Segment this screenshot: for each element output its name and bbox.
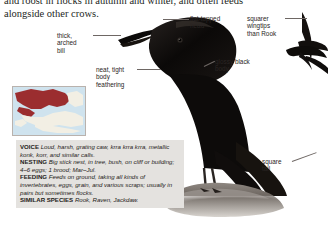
fact-value-voice: Loud, harsh, grating caw, krra krra krra… [20, 143, 169, 158]
fact-entry-voice: VOICE Loud, harsh, grating caw, krra krr… [20, 143, 180, 158]
field-guide-page: and roost in flocks in autumn and winter… [0, 0, 328, 226]
species-fact-box: VOICE Loud, harsh, grating caw, krra krr… [16, 140, 184, 208]
thick-arched-bill-callout: thick, arched bill [57, 32, 97, 54]
fact-entry-feeding: FEEDING Feeds on ground, taking all kind… [20, 173, 180, 196]
head-leader-line [163, 19, 189, 20]
body-feathering-callout: neat, tight body feathering [96, 66, 142, 88]
fact-key-similar-species: SIMILAR SPECIES [20, 196, 73, 203]
fact-entry-nesting: NESTING Big stick nest, in tree, bush, o… [20, 158, 180, 173]
wingtips-leader-line [285, 18, 307, 19]
flat-topped-head-callout: flat-topped head [190, 15, 238, 30]
fact-key-nesting: NESTING [20, 158, 47, 165]
glossy-black-body-callout: glossy black body [215, 58, 267, 73]
bill-leader-line [93, 35, 121, 36]
fact-entry-similar-species: SIMILAR SPECIES Rook, Raven, Jackdaw. [20, 196, 180, 204]
fact-value-similar-species: Rook, Raven, Jackdaw. [75, 196, 139, 203]
feathering-leader-line [137, 69, 161, 70]
fact-key-feeding: FEEDING [20, 173, 47, 180]
distribution-map [12, 86, 86, 136]
map-graphic [13, 87, 85, 135]
fact-key-voice: VOICE [20, 143, 39, 150]
